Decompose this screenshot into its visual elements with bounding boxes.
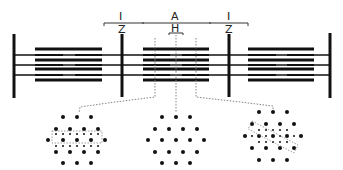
- section-pointer-lines: [79, 35, 273, 113]
- sarcomere-diagram: I Z A H I Z: [0, 0, 343, 170]
- cross-section-overlap-right: [243, 110, 303, 162]
- cross-section-h-zone: [146, 115, 206, 165]
- label-i-right: I: [227, 10, 230, 23]
- label-h-zone: H: [171, 22, 179, 35]
- label-i-left: I: [119, 10, 122, 23]
- cross-section-overlap-left: [46, 115, 107, 165]
